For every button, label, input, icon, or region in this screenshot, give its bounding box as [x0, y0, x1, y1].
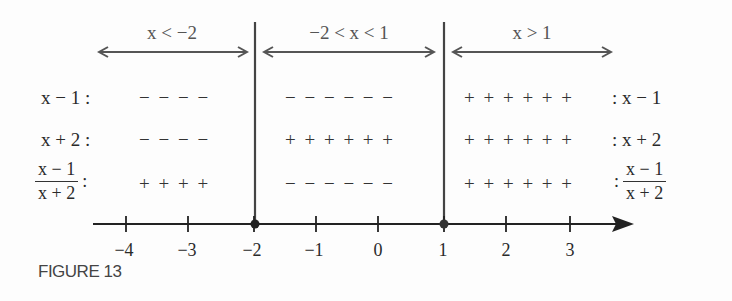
critical-point-1 [440, 220, 449, 229]
signs-x-plus-2-left: − − − − [139, 130, 210, 149]
tick-label-0: 0 [374, 241, 383, 259]
quotient-right-denominator: x + 2 [623, 182, 666, 203]
quotient-denominator: x + 2 [35, 182, 78, 203]
sign-chart-lines [0, 0, 732, 301]
tick-label-2: 2 [502, 241, 511, 259]
signs-x-minus-1-middle: − − − − − − [285, 88, 395, 107]
quotient-numerator: x − 1 [35, 160, 78, 182]
row-label-x-plus-2-right: : x + 2 [612, 130, 661, 149]
signs-x-plus-2-right: + + + + + + [464, 130, 574, 149]
figure-13: x < −2 −2 < x < 1 x > 1 x − 1 : − − − − … [0, 0, 732, 301]
signs-x-plus-2-middle: + + + + + + [285, 130, 395, 149]
quotient-colon: : [82, 171, 87, 192]
signs-quotient-right: + + + + + + [464, 174, 574, 193]
row-label-x-plus-2: x + 2 : [41, 130, 90, 149]
region-label-left: x < −2 [147, 23, 197, 42]
quotient-right-colon: : [614, 171, 619, 192]
signs-x-minus-1-right: + + + + + + [464, 88, 574, 107]
signs-quotient-middle: − − − − − − [285, 174, 395, 193]
row-label-quotient-right: : x − 1 x + 2 [610, 160, 666, 203]
region-label-middle: −2 < x < 1 [309, 23, 389, 42]
tick-label-minus-1: −1 [304, 241, 323, 259]
row-label-x-minus-1-right: : x − 1 [612, 88, 661, 107]
region-label-right: x > 1 [512, 23, 551, 42]
signs-quotient-left: + + + + [139, 174, 210, 193]
tick-label-3: 3 [566, 241, 575, 259]
quotient-right-numerator: x − 1 [623, 160, 666, 182]
tick-label-minus-3: −3 [177, 241, 196, 259]
tick-label-1: 1 [439, 241, 448, 259]
figure-caption: FIGURE 13 [38, 262, 121, 282]
tick-label-minus-2: −2 [242, 241, 261, 259]
tick-label-minus-4: −4 [114, 241, 133, 259]
signs-x-minus-1-left: − − − − [139, 88, 210, 107]
critical-point-minus-2 [251, 220, 260, 229]
row-label-x-minus-1: x − 1 : [41, 88, 90, 107]
row-label-quotient: x − 1 x + 2 : [35, 160, 91, 203]
